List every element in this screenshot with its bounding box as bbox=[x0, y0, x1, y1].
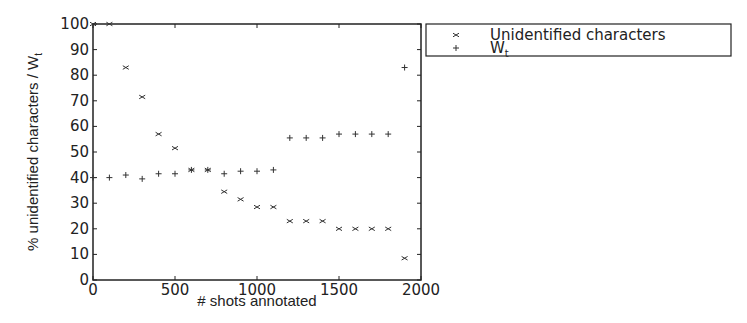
data-point bbox=[156, 171, 162, 177]
plot-frame bbox=[93, 24, 421, 280]
data-point bbox=[352, 131, 358, 137]
data-point bbox=[402, 65, 408, 71]
x-axis-ticks: 0500100015002000 bbox=[88, 24, 440, 299]
data-point bbox=[188, 167, 194, 173]
y-tick-label: 100 bbox=[60, 15, 89, 33]
data-point bbox=[320, 219, 326, 223]
data-point bbox=[172, 146, 178, 150]
data-point bbox=[123, 172, 129, 178]
data-point bbox=[123, 66, 129, 70]
data-point bbox=[385, 131, 391, 137]
y-tick-label: 80 bbox=[70, 66, 89, 84]
series-layer bbox=[90, 22, 408, 260]
y-tick-label: 10 bbox=[70, 245, 89, 263]
data-point bbox=[270, 167, 276, 173]
data-point bbox=[254, 168, 260, 174]
x-axis-label: # shots annotated bbox=[197, 292, 316, 309]
legend-label-main: W bbox=[490, 39, 505, 57]
data-point bbox=[287, 135, 293, 141]
y-tick-label: 60 bbox=[70, 117, 89, 135]
y-tick-label: 70 bbox=[70, 92, 89, 110]
legend-label: Unidentified characters bbox=[490, 26, 666, 44]
data-point bbox=[139, 95, 145, 99]
x-tick-label: 500 bbox=[161, 281, 190, 299]
data-point bbox=[106, 175, 112, 181]
data-point bbox=[139, 176, 145, 182]
x-tick-label: 2000 bbox=[402, 281, 440, 299]
data-point bbox=[238, 198, 244, 202]
data-point bbox=[352, 227, 358, 231]
series-w-t bbox=[90, 65, 408, 182]
data-point bbox=[303, 135, 309, 141]
data-point bbox=[320, 135, 326, 141]
legend: Unidentified charactersWt bbox=[426, 24, 731, 59]
chart: 0500100015002000 0102030405060708090100 … bbox=[0, 0, 747, 323]
data-point bbox=[336, 227, 342, 231]
y-tick-label: 30 bbox=[70, 194, 89, 212]
x-tick-label: 1500 bbox=[320, 281, 358, 299]
data-point bbox=[385, 227, 391, 231]
legend-label-main: Unidentified characters bbox=[490, 26, 666, 44]
data-point bbox=[205, 167, 211, 173]
series-unidentified-characters bbox=[90, 22, 408, 260]
data-point bbox=[238, 168, 244, 174]
plot-axes bbox=[93, 24, 421, 280]
y-axis-label-subscript: t bbox=[33, 53, 44, 56]
data-point bbox=[254, 205, 260, 209]
data-point bbox=[402, 256, 408, 260]
data-point bbox=[156, 132, 162, 136]
y-tick-label: 40 bbox=[70, 169, 89, 187]
legend-label-subscript: t bbox=[505, 48, 509, 59]
y-tick-label: 20 bbox=[70, 220, 89, 238]
data-point bbox=[303, 219, 309, 223]
data-point bbox=[221, 190, 227, 194]
x-tick-label: 0 bbox=[88, 281, 98, 299]
data-point bbox=[90, 175, 96, 181]
data-point bbox=[172, 171, 178, 177]
data-point bbox=[336, 131, 342, 137]
data-point bbox=[221, 171, 227, 177]
y-axis-label-main: % unidentified characters / W bbox=[24, 55, 41, 251]
y-tick-label: 50 bbox=[70, 143, 89, 161]
y-tick-label: 0 bbox=[79, 271, 89, 289]
y-axis-label: % unidentified characters / Wt bbox=[24, 53, 44, 251]
y-axis-ticks: 0102030405060708090100 bbox=[60, 15, 421, 289]
y-tick-label: 90 bbox=[70, 41, 89, 59]
data-point bbox=[287, 219, 293, 223]
data-point bbox=[369, 131, 375, 137]
data-point bbox=[369, 227, 375, 231]
data-point bbox=[270, 205, 276, 209]
